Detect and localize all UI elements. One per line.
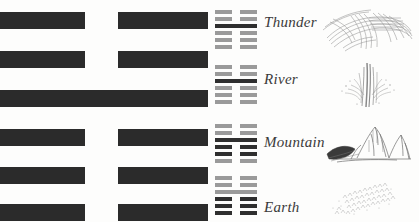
- trigram-label: Earth: [264, 199, 300, 216]
- mini-line-2: [215, 131, 257, 135]
- trigram-row: Mountain: [211, 116, 419, 171]
- line-segment-left: [0, 12, 85, 29]
- mini-line-1: [215, 176, 257, 180]
- mini-line-3: [215, 190, 257, 194]
- mini-line-1: [215, 124, 257, 128]
- line-segment-left: [0, 204, 85, 221]
- line-segment-right: [118, 204, 208, 221]
- mini-line-5: [215, 93, 257, 97]
- mini-line-6: [215, 100, 257, 104]
- mini-hexagram: [215, 8, 257, 50]
- mini-line-4: [215, 31, 257, 35]
- mini-line-5: [215, 38, 257, 42]
- mini-line-4: [215, 197, 257, 201]
- mini-line-4: [215, 145, 257, 149]
- line-segment-left: [0, 167, 85, 184]
- mini-line-6: [215, 45, 257, 49]
- mini-line-1: [215, 10, 257, 14]
- thunder-swirl-icon: [321, 4, 417, 56]
- mini-line-3: [215, 138, 257, 142]
- trigram-row: River: [211, 57, 419, 112]
- main-hexagram-line-5: [0, 167, 208, 184]
- trigram-row: Thunder: [211, 2, 419, 57]
- line-segment-left: [0, 129, 85, 146]
- line-segment-right: [118, 12, 208, 29]
- trigram-label: Thunder: [264, 14, 317, 31]
- trigram-row-list: Thunder: [211, 0, 419, 222]
- line-segment-left: [0, 51, 85, 68]
- main-hexagram-line-1: [0, 12, 208, 29]
- trigram-row: Earth: [211, 168, 419, 222]
- mini-line-3: [215, 79, 257, 83]
- mini-line-2: [215, 72, 257, 76]
- mini-line-4: [215, 86, 257, 90]
- main-hexagram-line-2: [0, 51, 208, 68]
- hexagram-plate: Thunder: [0, 0, 419, 222]
- main-hexagram-line-6: [0, 204, 208, 221]
- mini-hexagram: [215, 174, 257, 216]
- trigram-label: Mountain: [264, 134, 325, 151]
- mini-line-1: [215, 65, 257, 69]
- line-segment-full: [0, 90, 208, 107]
- mini-line-3: [215, 24, 257, 28]
- mini-hexagram: [215, 63, 257, 105]
- main-hexagram: [0, 0, 208, 222]
- mini-line-6: [215, 211, 257, 215]
- line-segment-right: [118, 51, 208, 68]
- main-hexagram-line-3: [0, 90, 208, 107]
- mini-line-2: [215, 183, 257, 187]
- mini-line-5: [215, 152, 257, 156]
- line-segment-right: [118, 167, 208, 184]
- trigram-label: River: [264, 71, 298, 88]
- mini-line-6: [215, 159, 257, 163]
- earth-scatter-icon: [321, 170, 417, 222]
- river-splash-icon: [321, 59, 417, 111]
- mountain-peak-icon: [321, 118, 417, 170]
- mini-line-2: [215, 17, 257, 21]
- mini-line-5: [215, 204, 257, 208]
- line-segment-right: [118, 129, 208, 146]
- mini-hexagram: [215, 122, 257, 164]
- main-hexagram-line-4: [0, 129, 208, 146]
